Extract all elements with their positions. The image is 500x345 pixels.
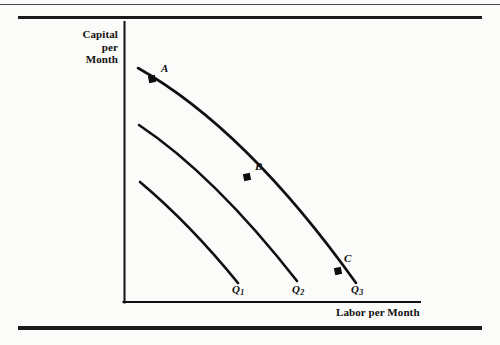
- data-point-label-b: B: [255, 160, 262, 172]
- data-point-label-a: A: [161, 62, 168, 74]
- data-point-label-c: C: [344, 252, 351, 264]
- curve-label-q2-sub: 2: [300, 288, 304, 297]
- curve-label-q2: Q2: [292, 283, 304, 295]
- x-axis-title: Labor per Month: [336, 306, 420, 319]
- y-axis-title-line-2: per: [40, 41, 118, 54]
- curve-label-q1: Q1: [232, 283, 244, 295]
- y-axis-title: Capital per Month: [40, 28, 118, 66]
- page-rule-top-thin: [0, 4, 500, 5]
- y-axis-title-line-3: Month: [40, 53, 118, 66]
- curve-label-q3-sub: 3: [359, 288, 363, 297]
- y-axis-title-line-1: Capital: [40, 28, 118, 41]
- curve-label-q1-sub: 1: [240, 288, 244, 297]
- curve-label-q3: Q3: [351, 283, 363, 295]
- curve-label-q2-base: Q: [292, 283, 300, 295]
- curve-label-q3-base: Q: [351, 283, 359, 295]
- data-point-b-marker: [243, 173, 251, 181]
- data-point-c-marker: [334, 267, 342, 275]
- curve-label-q1-base: Q: [232, 283, 240, 295]
- figure-page: Capital per Month Labor per Month A B C …: [0, 0, 500, 345]
- data-point-a-marker: [148, 75, 156, 83]
- isoquant-figure: Capital per Month Labor per Month A B C …: [0, 18, 500, 328]
